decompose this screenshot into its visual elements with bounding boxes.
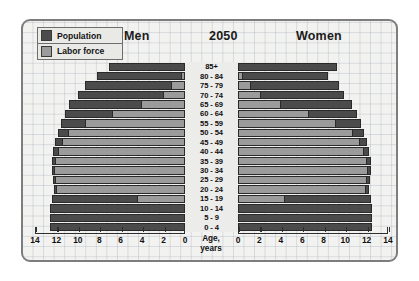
bar-group-women bbox=[238, 213, 388, 222]
header-men: Men bbox=[124, 29, 150, 43]
axis-tick-label: 10 bbox=[73, 235, 82, 245]
bar-group-men bbox=[35, 109, 185, 118]
bar-group-women bbox=[238, 109, 388, 118]
bar-labor-force bbox=[238, 129, 353, 137]
age-group-label: 50 - 54 bbox=[185, 128, 238, 137]
bar-group-men bbox=[35, 185, 185, 194]
bar-population bbox=[97, 72, 185, 80]
bar-labor-force bbox=[238, 138, 360, 146]
bar-labor-force bbox=[238, 147, 364, 155]
bar-group-women bbox=[238, 100, 388, 109]
legend-item-population: Population bbox=[37, 27, 123, 44]
bar-group-women bbox=[238, 147, 388, 156]
header-year: 2050 bbox=[209, 29, 238, 43]
age-group-label: 55 - 59 bbox=[185, 119, 238, 128]
bar-group-women bbox=[238, 156, 388, 165]
axis-tick bbox=[282, 227, 283, 232]
axis-tick bbox=[239, 227, 240, 232]
axis-tick-label: 2 bbox=[161, 235, 166, 245]
axis-tick bbox=[143, 227, 144, 232]
axis-title: Age, years bbox=[189, 234, 233, 253]
bar-labor-force bbox=[238, 72, 243, 80]
bar-labor-force bbox=[58, 147, 186, 155]
bar-labor-force bbox=[137, 195, 185, 203]
axis-tick-label: 6 bbox=[300, 235, 305, 245]
age-group-label: 20 - 24 bbox=[185, 185, 238, 194]
axis-right bbox=[238, 227, 388, 234]
bar-labor-force bbox=[238, 91, 261, 99]
bar-labor-force bbox=[163, 91, 186, 99]
age-group-label: 70 - 74 bbox=[185, 90, 238, 99]
axis-tick bbox=[165, 227, 166, 232]
pyramid-row: 35 - 39 bbox=[35, 156, 388, 165]
axis-tick-label: 12 bbox=[362, 235, 371, 245]
header-women: Women bbox=[296, 29, 342, 43]
axis-title-line2: years bbox=[189, 244, 233, 254]
axis-tick-label: 0 bbox=[183, 235, 188, 245]
bar-group-women bbox=[238, 185, 388, 194]
bar-group-men bbox=[35, 213, 185, 222]
bar-group-men bbox=[35, 166, 185, 175]
bar-population bbox=[238, 214, 372, 222]
bar-group-men bbox=[35, 175, 185, 184]
axis-tick-labels: Age, years 1412108642002468101214 bbox=[23, 235, 398, 261]
bar-group-men bbox=[35, 90, 185, 99]
bar-labor-force bbox=[85, 119, 185, 127]
pyramid-row: 80 - 84 bbox=[35, 71, 388, 80]
legend-label-population: Population bbox=[57, 31, 101, 41]
axis-tick-label: 10 bbox=[340, 235, 349, 245]
axis-tick-label: 4 bbox=[140, 235, 145, 245]
pyramid-row: 55 - 59 bbox=[35, 119, 388, 128]
age-group-label: 80 - 84 bbox=[185, 71, 238, 80]
bar-population bbox=[85, 81, 185, 89]
pyramid-row: 25 - 29 bbox=[35, 175, 388, 184]
age-group-label: 15 - 19 bbox=[185, 194, 238, 203]
legend-item-labor-force: Labor force bbox=[37, 43, 123, 60]
bar-labor-force bbox=[55, 176, 185, 184]
age-group-label: 60 - 64 bbox=[185, 109, 238, 118]
axis-tick bbox=[100, 227, 101, 232]
axis-tick-label: 4 bbox=[279, 235, 284, 245]
bar-group-women bbox=[238, 128, 388, 137]
bar-labor-force bbox=[54, 166, 185, 174]
bar-group-men bbox=[35, 100, 185, 109]
bar-labor-force bbox=[238, 119, 336, 127]
bar-population bbox=[238, 81, 339, 89]
bar-labor-force bbox=[238, 81, 251, 89]
bar-group-men bbox=[35, 156, 185, 165]
axis-tick-label: 0 bbox=[236, 235, 241, 245]
bar-labor-force bbox=[238, 195, 285, 203]
axis-tick bbox=[57, 227, 58, 232]
pyramid-row: 30 - 34 bbox=[35, 166, 388, 175]
axis-tick bbox=[36, 227, 37, 232]
age-group-label: 25 - 29 bbox=[185, 175, 238, 184]
age-group-label: 45 - 49 bbox=[185, 138, 238, 147]
bar-group-men bbox=[35, 119, 185, 128]
axis-tick-label: 14 bbox=[30, 235, 39, 245]
axis-tick bbox=[368, 227, 369, 232]
bar-labor-force bbox=[68, 129, 185, 137]
axis-title-line1: Age, bbox=[189, 234, 233, 244]
bar-labor-force bbox=[62, 138, 185, 146]
legend-swatch-labor-force bbox=[41, 46, 52, 57]
bar-group-men bbox=[35, 204, 185, 213]
bar-group-men bbox=[35, 128, 185, 137]
bar-group-women bbox=[238, 175, 388, 184]
bar-group-women bbox=[238, 71, 388, 80]
bar-group-women bbox=[238, 166, 388, 175]
chart-card: Men 2050 Women Population Labor force 85… bbox=[21, 19, 398, 262]
bar-group-men bbox=[35, 71, 185, 80]
pyramid-row: 70 - 74 bbox=[35, 90, 388, 99]
bar-population bbox=[109, 63, 185, 71]
pyramid-row: 75 - 79 bbox=[35, 81, 388, 90]
axis-tick bbox=[122, 227, 123, 232]
bar-population bbox=[238, 63, 337, 71]
bar-labor-force bbox=[171, 81, 185, 89]
axis-tick-label: 12 bbox=[52, 235, 61, 245]
bar-population bbox=[50, 204, 185, 212]
bar-labor-force bbox=[55, 157, 185, 165]
pyramid-row: 40 - 44 bbox=[35, 147, 388, 156]
pyramid-row: 45 - 49 bbox=[35, 138, 388, 147]
pyramid-row: 15 - 19 bbox=[35, 194, 388, 203]
axis-tick-label: 8 bbox=[321, 235, 326, 245]
